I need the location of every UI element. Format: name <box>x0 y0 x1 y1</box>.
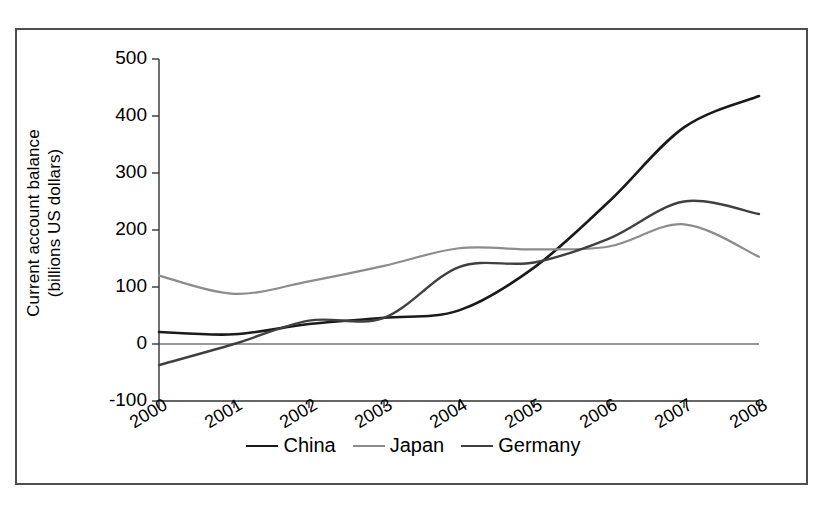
legend-swatch-line-icon <box>461 445 493 447</box>
series-line-china <box>159 96 759 335</box>
legend-label: Germany <box>498 434 580 457</box>
legend-swatch-line-icon <box>353 445 385 447</box>
legend-swatch-line-icon <box>246 445 278 447</box>
legend-label: China <box>283 434 335 457</box>
legend-label: Japan <box>390 434 445 457</box>
y-axis-tick-label: 300 <box>57 161 147 183</box>
legend-entry-germany[interactable]: Germany <box>461 434 580 457</box>
y-axis-tick-label: 100 <box>57 275 147 297</box>
series-line-japan <box>159 224 759 294</box>
chart-legend: ChinaJapanGermany <box>17 434 810 457</box>
y-axis-tick-label: 0 <box>57 332 147 354</box>
y-axis-tick-label: 500 <box>57 47 147 69</box>
y-axis-tick-label: 200 <box>57 218 147 240</box>
y-axis-tick-label: -100 <box>57 389 147 411</box>
chart-figure: Current account balance (billions US dol… <box>15 28 808 485</box>
legend-entry-japan[interactable]: Japan <box>353 434 445 457</box>
y-axis-tick-label: 400 <box>57 104 147 126</box>
legend-entry-china[interactable]: China <box>246 434 335 457</box>
